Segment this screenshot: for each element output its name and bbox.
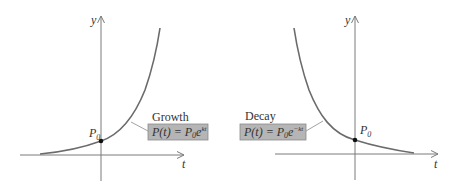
- decay-p0-label: P0: [359, 123, 371, 139]
- decay-curve: [294, 28, 414, 153]
- growth-leader-line: [131, 122, 148, 131]
- decay-leader-line: [306, 121, 323, 131]
- growth-graph: P0 y t Growth P(t) = P0ekt: [20, 13, 208, 181]
- exponential-graphs: P0 y t Growth P(t) = P0ekt P0 y t Decay …: [0, 0, 455, 189]
- growth-formula: P(t) = P0ekt: [151, 125, 208, 140]
- decay-title: Decay: [245, 109, 276, 123]
- decay-t-axis-label: t: [434, 157, 438, 171]
- decay-p0-point: [353, 138, 358, 143]
- decay-graph: P0 y t Decay P(t) = P0e−kt: [240, 13, 438, 180]
- growth-t-axis-label: t: [182, 157, 186, 171]
- decay-y-axis-label: y: [344, 13, 351, 27]
- growth-p0-label: P0: [88, 126, 100, 142]
- growth-y-axis-label: y: [90, 13, 97, 27]
- growth-title: Growth: [152, 110, 189, 124]
